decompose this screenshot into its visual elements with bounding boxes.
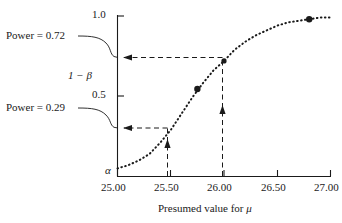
arrow-left-029 <box>123 125 132 131</box>
x-tick-label-27.00: 27.00 <box>314 182 339 193</box>
x-axis-title-text: Presumed value for <box>158 202 246 214</box>
x-axis-title: Presumed value for μ <box>158 203 252 214</box>
x-tick-label-25.50: 25.50 <box>154 182 179 193</box>
leader-line-029 <box>78 108 118 128</box>
alpha-level-label: α <box>105 165 111 176</box>
y-axis-inner-label: 1 − β <box>68 70 92 81</box>
marker-point-1 <box>194 86 200 92</box>
x-tick-label-25.00: 25.00 <box>101 182 126 193</box>
guide-072-arrowheads <box>123 54 226 114</box>
callout-power-029: Power = 0.29 <box>6 102 65 113</box>
axis-lines <box>117 15 331 177</box>
curve-markers <box>194 16 312 92</box>
marker-point-2 <box>221 58 226 63</box>
x-tick-label-26.50: 26.50 <box>261 182 286 193</box>
y-tick-label-1.0: 1.0 <box>92 9 106 20</box>
arrow-up-026.0 <box>219 105 225 114</box>
leader-line-072 <box>78 36 118 58</box>
x-axis-title-symbol: μ <box>246 202 252 214</box>
arrow-up-025.5 <box>164 139 170 148</box>
power-curve-line <box>118 18 331 169</box>
x-tick-marks <box>118 170 331 177</box>
x-tick-label-26.00: 26.00 <box>207 182 232 193</box>
callout-power-072: Power = 0.72 <box>6 30 65 41</box>
guide-power-029 <box>124 128 168 176</box>
y-tick-marks <box>118 16 125 96</box>
guide-power-072 <box>124 58 223 177</box>
marker-point-3 <box>306 16 312 22</box>
arrow-left-072 <box>123 54 132 60</box>
power-curve-figure: Power = 0.72 Power = 0.29 1.0 0.5 1 − β … <box>0 0 342 223</box>
y-tick-label-0.5: 0.5 <box>92 89 106 100</box>
